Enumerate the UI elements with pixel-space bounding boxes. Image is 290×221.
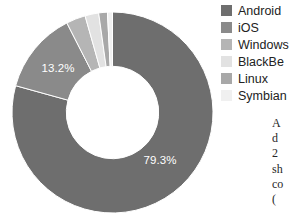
legend-label-linux: Linux	[238, 72, 268, 86]
donut-chart-figure: 79.3%13.2% Android iOS Windows BlackBe L…	[0, 0, 290, 221]
donut-data-label: 13.2%	[41, 62, 74, 74]
legend-label-android: Android	[238, 4, 281, 18]
legend-swatch-windows	[221, 39, 232, 50]
legend-swatch-blackberry	[221, 56, 232, 67]
chart-legend: Android iOS Windows BlackBe Linux Symbia…	[221, 2, 290, 106]
legend-item-linux[interactable]: Linux	[221, 70, 268, 87]
legend-item-windows[interactable]: Windows	[221, 36, 289, 53]
legend-label-blackberry: BlackBe	[238, 55, 284, 69]
legend-item-blackberry[interactable]: BlackBe	[221, 53, 284, 70]
caption-line: sh	[272, 162, 290, 177]
legend-item-ios[interactable]: iOS	[221, 19, 259, 36]
legend-item-symbian[interactable]: Symbian	[221, 87, 287, 104]
legend-swatch-symbian	[221, 90, 232, 101]
caption-line: co	[272, 177, 290, 192]
legend-label-symbian: Symbian	[238, 89, 287, 103]
caption-line: A	[272, 116, 290, 131]
legend-swatch-linux	[221, 73, 232, 84]
legend-label-ios: iOS	[238, 21, 259, 35]
caption-line: d	[272, 131, 290, 146]
donut-chart-svg: 79.3%13.2%	[0, 0, 225, 221]
caption-paragraph: A d 2 sh co (	[272, 116, 290, 207]
legend-item-android[interactable]: Android	[221, 2, 281, 19]
legend-swatch-ios	[221, 22, 232, 33]
caption-line: 2	[272, 146, 290, 161]
legend-label-windows: Windows	[238, 38, 289, 52]
donut-slice-group	[12, 12, 213, 213]
donut-data-label: 79.3%	[143, 154, 176, 166]
legend-swatch-android	[221, 5, 232, 16]
donut-chart-plot-area: 79.3%13.2%	[0, 0, 225, 221]
caption-line: (	[272, 192, 290, 207]
